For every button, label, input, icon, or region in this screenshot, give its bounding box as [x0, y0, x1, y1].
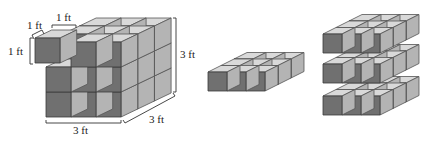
width-bracket — [46, 120, 121, 123]
unit-cube-front — [323, 34, 342, 53]
unit-cube-front — [46, 92, 71, 117]
unit-cube-front — [46, 67, 71, 92]
height-bracket — [173, 18, 176, 92]
big-width-label: 3 ft — [73, 124, 88, 136]
unit-depth-label: 1 ft — [27, 19, 42, 31]
stacked-layers — [323, 15, 419, 116]
unit-cube-front — [323, 96, 342, 115]
three-foot-cube — [35, 18, 171, 117]
big-depth-label: 3 ft — [149, 113, 164, 125]
single-layer — [208, 53, 304, 92]
unit-width-label: 1 ft — [56, 11, 71, 23]
unit-height-label: 1 ft — [8, 45, 23, 57]
unit-cube-front — [323, 64, 342, 83]
unit-height-bracket — [30, 38, 33, 64]
unit-cube-front — [208, 72, 227, 91]
cube-diagram: 1 ft 1 ft 1 ft 3 ft 3 ft 3 ft — [0, 0, 426, 141]
unit-cube-front — [35, 38, 60, 63]
big-height-label: 3 ft — [180, 48, 195, 60]
unit-width-bracket — [52, 25, 76, 28]
